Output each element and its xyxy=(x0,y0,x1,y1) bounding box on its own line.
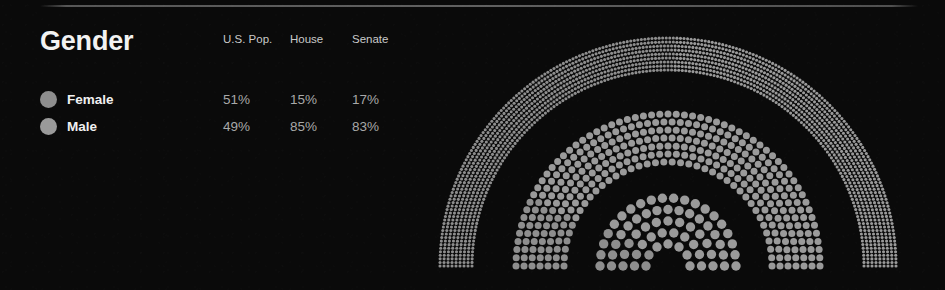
dot xyxy=(515,105,518,108)
dot xyxy=(867,155,870,158)
dot xyxy=(578,54,581,57)
dot xyxy=(505,127,508,130)
dot xyxy=(466,208,469,211)
dot xyxy=(788,86,791,89)
dot xyxy=(636,55,639,58)
dot xyxy=(686,53,689,56)
dot xyxy=(824,148,827,151)
dot xyxy=(868,168,871,171)
dot xyxy=(858,195,861,198)
dot xyxy=(789,207,796,214)
dot xyxy=(758,187,765,194)
dot xyxy=(866,205,869,208)
dot xyxy=(857,191,860,194)
dot xyxy=(529,83,532,86)
dot xyxy=(884,229,887,232)
dot xyxy=(728,49,731,52)
dot xyxy=(601,125,608,132)
dot xyxy=(543,73,546,76)
dot xyxy=(875,194,878,197)
legend-row-female[interactable]: Female 51% 15% 17% xyxy=(40,86,412,113)
dot xyxy=(808,118,811,121)
dot xyxy=(537,81,540,84)
dot xyxy=(717,128,724,135)
dot xyxy=(873,219,876,222)
dot xyxy=(542,83,545,86)
dot xyxy=(812,95,815,98)
dot xyxy=(583,175,590,182)
dot xyxy=(469,188,472,191)
dot xyxy=(840,150,843,153)
dot xyxy=(565,60,568,63)
dot xyxy=(474,143,477,146)
dot xyxy=(705,68,708,71)
dot xyxy=(890,257,893,260)
dot xyxy=(577,90,580,93)
dot xyxy=(488,150,491,153)
dot xyxy=(798,83,801,86)
dot xyxy=(439,247,442,250)
dot xyxy=(731,153,738,160)
dot xyxy=(486,188,489,191)
dot xyxy=(512,108,515,111)
dot xyxy=(750,61,753,64)
dot xyxy=(752,181,759,188)
dot xyxy=(728,142,735,149)
dot xyxy=(610,73,613,76)
dot xyxy=(642,62,645,65)
dot xyxy=(480,205,483,208)
dot xyxy=(553,171,560,178)
dot xyxy=(471,254,474,257)
dot xyxy=(585,73,588,76)
dot xyxy=(616,118,623,125)
dot xyxy=(855,211,858,214)
dot xyxy=(479,195,482,198)
dot xyxy=(619,46,622,49)
dot xyxy=(448,215,451,218)
dot xyxy=(730,250,739,259)
dot xyxy=(464,218,467,221)
dot xyxy=(468,240,471,243)
dot xyxy=(520,214,527,221)
legend-label-male: Male xyxy=(67,119,223,134)
dot xyxy=(467,222,470,225)
dot xyxy=(725,48,728,51)
dot xyxy=(476,191,479,194)
dot xyxy=(652,135,659,142)
dot xyxy=(700,55,703,58)
dot xyxy=(797,118,800,121)
dot xyxy=(870,181,873,184)
dot xyxy=(474,212,477,215)
dot xyxy=(776,200,783,207)
dot xyxy=(883,225,886,228)
dot xyxy=(866,222,869,225)
dot xyxy=(457,198,460,201)
dot xyxy=(656,45,659,48)
dot xyxy=(877,178,880,181)
dot xyxy=(610,220,619,229)
dot xyxy=(878,254,881,257)
dot xyxy=(541,230,548,237)
dot xyxy=(831,145,834,148)
dot xyxy=(492,137,495,140)
dot xyxy=(729,70,732,73)
dot xyxy=(894,250,897,253)
dot xyxy=(818,133,821,136)
dot xyxy=(756,173,763,180)
dot xyxy=(547,99,550,102)
dot xyxy=(556,83,559,86)
dot xyxy=(597,73,600,76)
dot xyxy=(803,113,806,116)
dot xyxy=(607,74,610,77)
legend-row-male[interactable]: Male 49% 85% 83% xyxy=(40,113,412,140)
dot xyxy=(768,65,771,68)
dot xyxy=(566,230,573,237)
dot xyxy=(783,102,786,105)
dot xyxy=(761,166,768,173)
dot xyxy=(475,155,478,158)
dot xyxy=(878,250,881,253)
dot xyxy=(772,72,775,75)
dot xyxy=(439,254,442,257)
dot xyxy=(861,146,864,149)
dot xyxy=(470,185,473,188)
